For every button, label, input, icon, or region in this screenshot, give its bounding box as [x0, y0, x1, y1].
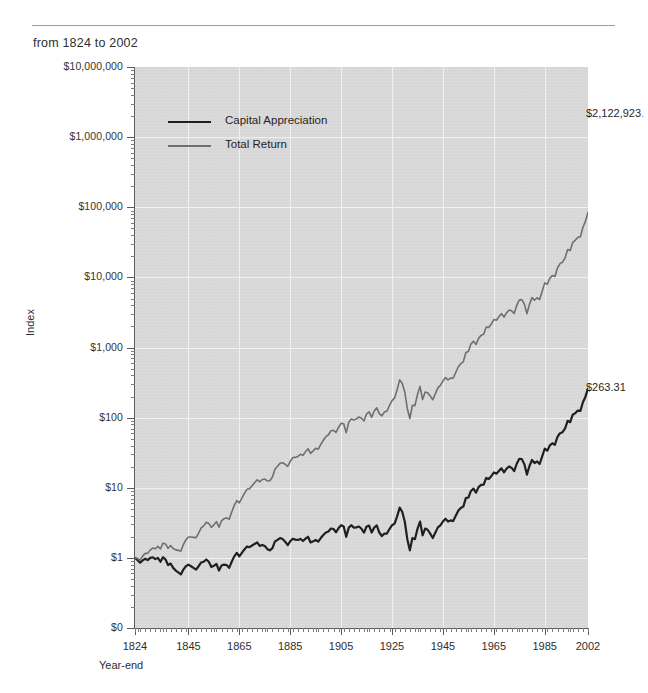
y-axis-minor-tick: [131, 140, 135, 141]
y-axis-tick-label: $0: [30, 621, 123, 633]
x-axis-title: Year-end: [99, 659, 143, 671]
x-axis-minor-tick: [374, 628, 375, 632]
x-axis-minor-tick: [242, 628, 243, 632]
y-axis-major-tick: [127, 348, 135, 349]
x-axis-minor-tick: [563, 628, 564, 632]
x-axis-minor-tick: [542, 628, 543, 632]
x-axis-minor-tick: [425, 628, 426, 632]
y-axis-major-tick: [127, 277, 135, 278]
x-axis-tick-label: 1965: [469, 640, 519, 652]
x-axis-minor-tick: [507, 628, 508, 632]
legend-swatch-capital-appreciation: [168, 121, 211, 123]
y-axis-minor-tick: [131, 569, 135, 570]
y-axis-minor-tick: [131, 424, 135, 425]
x-axis-minor-tick: [328, 628, 329, 632]
y-axis-major-tick: [127, 207, 135, 208]
y-axis-minor-tick: [131, 116, 135, 117]
x-axis-minor-tick: [349, 628, 350, 632]
y-axis-minor-tick: [131, 421, 135, 422]
x-axis-minor-tick: [570, 628, 571, 632]
x-axis-minor-tick: [163, 628, 164, 632]
x-axis-tick-label: 1925: [367, 640, 417, 652]
x-axis-minor-tick: [308, 628, 309, 632]
x-axis-minor-tick: [461, 628, 462, 632]
y-axis-tick-label: $1,000: [30, 341, 123, 353]
x-axis-tick-label: 1824: [110, 640, 160, 652]
y-axis-minor-tick: [131, 165, 135, 166]
y-axis-minor-tick: [131, 305, 135, 306]
y-axis-minor-tick: [131, 369, 135, 370]
x-axis-minor-tick: [451, 628, 452, 632]
x-axis-minor-tick: [364, 628, 365, 632]
y-axis-minor-tick: [131, 491, 135, 492]
y-axis-minor-tick: [131, 595, 135, 596]
legend-label-capital-appreciation: Capital Appreciation: [225, 114, 327, 126]
chart-figure: from 1824 to 2002 $10,000,000$1,000,000$…: [0, 0, 648, 693]
x-axis-minor-tick: [344, 628, 345, 632]
y-axis-minor-tick: [131, 524, 135, 525]
x-axis-minor-tick: [466, 628, 467, 632]
y-axis-major-tick: [127, 67, 135, 68]
x-axis-minor-tick: [232, 628, 233, 632]
x-axis-minor-tick: [502, 628, 503, 632]
y-axis-minor-tick: [131, 326, 135, 327]
legend-label-total-return: Total Return: [225, 138, 287, 150]
x-axis-minor-tick: [568, 628, 569, 632]
y-axis-minor-tick: [131, 495, 135, 496]
y-axis-minor-tick: [131, 158, 135, 159]
y-axis-minor-tick: [131, 454, 135, 455]
series-line-capital-appreciation: [135, 389, 588, 575]
x-axis-tick-label: 1905: [316, 640, 366, 652]
y-axis-major-tick: [127, 418, 135, 419]
x-axis-minor-tick: [471, 628, 472, 632]
y-axis-minor-tick: [131, 256, 135, 257]
y-axis-major-tick: [127, 137, 135, 138]
x-axis-minor-tick: [558, 628, 559, 632]
x-axis-minor-tick: [216, 628, 217, 632]
legend-swatch-total-return: [168, 145, 211, 147]
y-axis-tick-label: $1: [30, 551, 123, 563]
y-axis-major-tick: [127, 628, 135, 629]
y-axis-minor-tick: [131, 579, 135, 580]
x-axis-major-tick: [239, 628, 240, 635]
y-axis-minor-tick: [131, 429, 135, 430]
x-axis-minor-tick: [415, 628, 416, 632]
x-axis-minor-tick: [496, 628, 497, 632]
x-axis-minor-tick: [257, 628, 258, 632]
x-axis-minor-tick: [155, 628, 156, 632]
y-axis-minor-tick: [131, 223, 135, 224]
annotation-total-return-value: $2,122,923.: [586, 107, 644, 119]
x-axis-minor-tick: [316, 628, 317, 632]
x-axis-minor-tick: [145, 628, 146, 632]
x-axis-minor-tick: [211, 628, 212, 632]
y-axis-tick-label: $100: [30, 411, 123, 423]
x-axis-minor-tick: [578, 628, 579, 632]
y-axis-minor-tick: [131, 153, 135, 154]
y-axis-minor-tick: [131, 218, 135, 219]
x-axis-minor-tick: [181, 628, 182, 632]
y-axis-minor-tick: [131, 83, 135, 84]
x-axis-minor-tick: [476, 628, 477, 632]
x-axis-major-tick: [545, 628, 546, 635]
x-axis-minor-tick: [519, 628, 520, 632]
y-axis-minor-tick: [131, 499, 135, 500]
y-axis-minor-tick: [131, 314, 135, 315]
y-axis-minor-tick: [131, 95, 135, 96]
x-axis-minor-tick: [379, 628, 380, 632]
x-axis-minor-tick: [369, 628, 370, 632]
y-axis-minor-tick: [131, 281, 135, 282]
x-axis-minor-tick: [547, 628, 548, 632]
x-axis-minor-tick: [262, 628, 263, 632]
y-axis-minor-tick: [131, 299, 135, 300]
x-axis-minor-tick: [491, 628, 492, 632]
x-axis-minor-tick: [552, 628, 553, 632]
x-axis-minor-tick: [138, 628, 139, 632]
x-axis-minor-tick: [588, 628, 589, 632]
y-axis-minor-tick: [131, 607, 135, 608]
y-axis-minor-tick: [131, 565, 135, 566]
y-axis-minor-tick: [131, 351, 135, 352]
x-axis-minor-tick: [517, 628, 518, 632]
x-axis-major-tick: [392, 628, 393, 635]
x-axis-minor-tick: [278, 628, 279, 632]
y-axis-minor-tick: [131, 433, 135, 434]
